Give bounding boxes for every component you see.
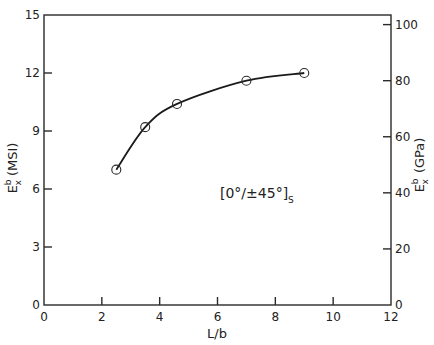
y-right-tick-label: 0	[395, 298, 403, 312]
x-tick-label: 4	[156, 310, 164, 324]
y-tick-label: 9	[32, 124, 40, 138]
x-tick-label: 2	[98, 310, 106, 324]
y-right-tick-label: 100	[395, 18, 418, 32]
svg-text:Ebx(MSI): Ebx(MSI)	[3, 143, 23, 194]
y-axis-left-ticks: 03691215	[25, 8, 52, 312]
x-tick-label: 8	[272, 310, 280, 324]
x-tick-label: 6	[214, 310, 222, 324]
y-right-tick-label: 60	[395, 130, 410, 144]
data-curve	[116, 73, 304, 170]
y-tick-label: 0	[32, 298, 40, 312]
y-right-tick-label: 20	[395, 242, 410, 256]
y-axis-right-title: Ebx(GPa)	[410, 138, 430, 193]
chart: 024681012 03691215 020406080100 L/b Ebx(…	[0, 0, 434, 345]
laminate-annotation: [0°/±45°]S	[220, 185, 294, 205]
x-tick-label: 10	[326, 310, 341, 324]
y-tick-label: 6	[32, 182, 40, 196]
x-tick-label: 0	[40, 310, 48, 324]
y-right-tick-label: 80	[395, 74, 410, 88]
y-right-tick-label: 40	[395, 186, 410, 200]
plot-border	[44, 15, 391, 305]
x-axis-title: L/b	[207, 326, 227, 341]
fitted-curve	[116, 73, 304, 170]
svg-text:Ebx(GPa): Ebx(GPa)	[410, 138, 430, 193]
y-tick-label: 12	[25, 66, 40, 80]
y-tick-label: 3	[32, 240, 40, 254]
y-tick-label: 15	[25, 8, 40, 22]
data-markers	[112, 69, 309, 175]
x-tick-label: 12	[383, 310, 398, 324]
plot-frame	[44, 15, 391, 305]
y-axis-left-title: Ebx(MSI)	[3, 143, 23, 194]
x-axis-ticks: 024681012	[40, 297, 398, 324]
